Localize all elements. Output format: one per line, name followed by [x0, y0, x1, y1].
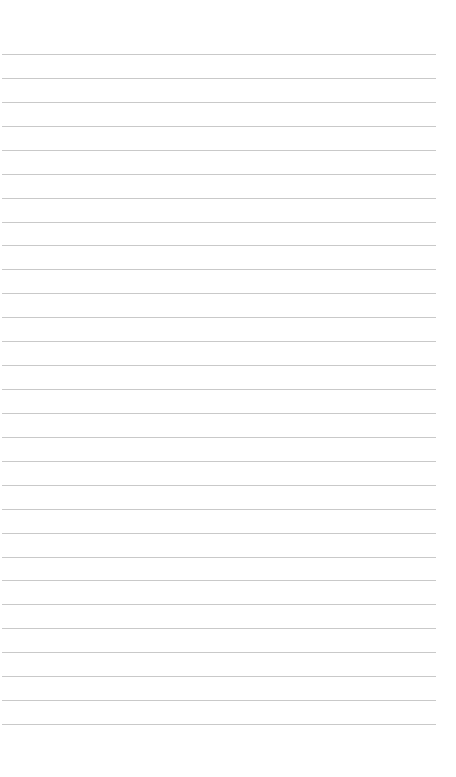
ruled-line	[2, 604, 436, 605]
ruled-paper-page	[0, 0, 456, 777]
ruled-line	[2, 174, 436, 175]
ruled-line	[2, 580, 436, 581]
ruled-line	[2, 652, 436, 653]
ruled-line	[2, 245, 436, 246]
ruled-line	[2, 724, 436, 725]
ruled-line	[2, 126, 436, 127]
ruled-line	[2, 437, 436, 438]
ruled-line	[2, 700, 436, 701]
ruled-line	[2, 222, 436, 223]
ruled-line	[2, 198, 436, 199]
ruled-line	[2, 533, 436, 534]
ruled-line	[2, 509, 436, 510]
ruled-line	[2, 293, 436, 294]
ruled-line	[2, 676, 436, 677]
ruled-line	[2, 150, 436, 151]
ruled-line	[2, 485, 436, 486]
ruled-line	[2, 78, 436, 79]
ruled-line	[2, 341, 436, 342]
ruled-line	[2, 317, 436, 318]
ruled-line	[2, 365, 436, 366]
ruled-line	[2, 54, 436, 55]
ruled-line	[2, 628, 436, 629]
ruled-line	[2, 413, 436, 414]
ruled-line	[2, 389, 436, 390]
ruled-line	[2, 269, 436, 270]
ruled-line	[2, 461, 436, 462]
ruled-line	[2, 557, 436, 558]
ruled-line	[2, 102, 436, 103]
